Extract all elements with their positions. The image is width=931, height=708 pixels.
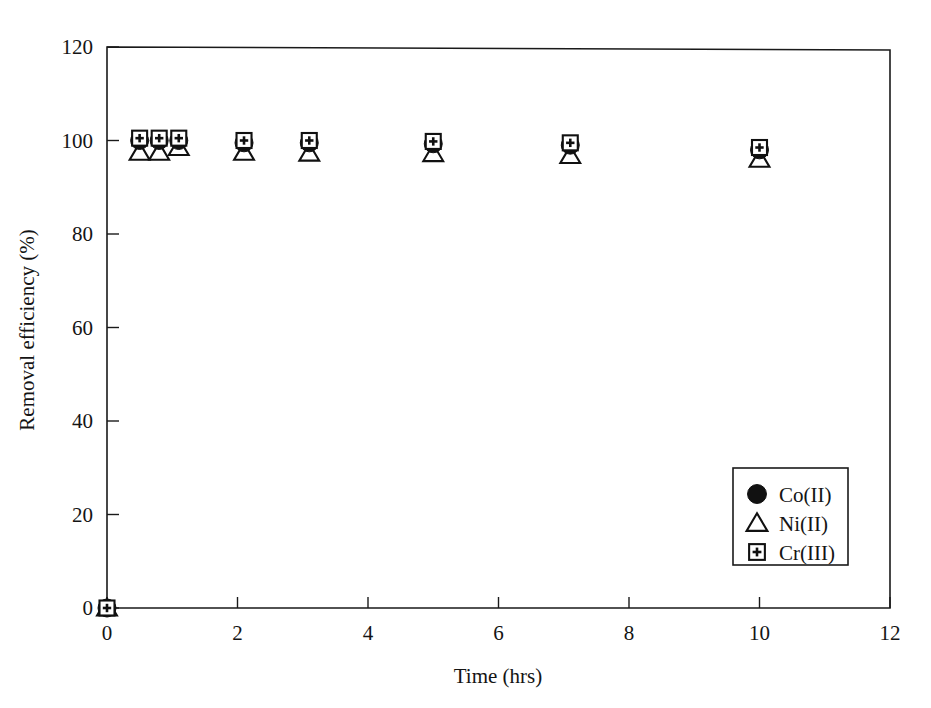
legend-label-coii: Co(II) <box>779 483 831 507</box>
data-point <box>563 135 578 150</box>
x-tick-label: 4 <box>363 621 374 645</box>
x-tick-label: 0 <box>102 621 113 645</box>
y-tick-label: 120 <box>62 35 94 59</box>
chart-background <box>0 0 931 708</box>
x-tick-label: 2 <box>232 621 243 645</box>
data-point <box>100 601 115 616</box>
legend-marker-coii <box>748 485 767 504</box>
y-tick-label: 0 <box>83 596 94 620</box>
data-point <box>426 134 441 149</box>
y-axis-title: Removal efficiency (%) <box>15 229 39 430</box>
y-tick-label: 80 <box>72 222 93 246</box>
x-axis-title: Time (hrs) <box>454 664 542 688</box>
data-point <box>237 133 252 148</box>
data-point <box>302 133 317 148</box>
x-tick-label: 12 <box>880 621 901 645</box>
data-point <box>171 131 186 146</box>
y-tick-label: 60 <box>72 316 93 340</box>
legend-marker-criii <box>749 544 765 560</box>
legend-label-criii: Cr(III) <box>779 541 835 565</box>
y-tick-label: 100 <box>62 129 94 153</box>
legend-entries: Co(II)Ni(II)Cr(III) <box>747 483 835 565</box>
scatter-chart: 024681012 020406080100120 Time (hrs) Rem… <box>0 0 931 708</box>
data-point <box>752 140 767 155</box>
y-tick-label: 40 <box>72 409 93 433</box>
legend: Co(II)Ni(II)Cr(III) <box>733 468 848 565</box>
figure-container: 024681012 020406080100120 Time (hrs) Rem… <box>0 0 931 708</box>
data-point <box>132 131 147 146</box>
x-tick-label: 6 <box>493 621 504 645</box>
x-tick-label: 8 <box>624 621 635 645</box>
legend-label-niii: Ni(II) <box>779 512 828 536</box>
y-tick-label: 20 <box>72 503 93 527</box>
x-tick-label: 10 <box>749 621 770 645</box>
data-point <box>152 131 167 146</box>
